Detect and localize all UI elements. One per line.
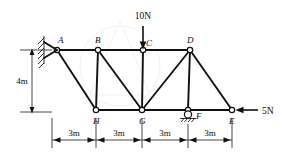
joint-label-E: E [228, 116, 235, 126]
member-D-F [188, 50, 190, 110]
dimension-span-3-label: 3m [159, 128, 171, 138]
member-D-E [190, 50, 232, 110]
load-5N-arrow [236, 107, 259, 114]
joint-B [95, 47, 100, 52]
dimension-span-4-label: 3m [204, 128, 216, 138]
pin-support-A-icon [38, 36, 57, 68]
roller-support-F-icon [180, 111, 196, 122]
load-5N-label: 5N [262, 106, 274, 116]
truss-diagram-figure: 10N 5N A B C D H G F E 4m [0, 0, 282, 156]
joint-G [139, 107, 144, 112]
joint-label-C: C [146, 38, 153, 48]
member-D-G [142, 50, 190, 110]
joint-D [187, 47, 192, 52]
member-B-H [96, 50, 98, 110]
joint-H [93, 107, 98, 112]
dimension-height-label: 4m [16, 76, 28, 86]
joint-label-F: F [195, 111, 202, 121]
joint-label-B: B [95, 35, 101, 45]
joint-E [229, 107, 234, 112]
load-10N-label: 10N [135, 11, 152, 21]
truss-svg-canvas: 10N 5N A B C D H G F E 4m [0, 0, 282, 156]
joint-label-D: D [186, 35, 194, 45]
member-C-G [142, 50, 143, 110]
joint-label-G: G [139, 116, 146, 126]
member-A-H [57, 50, 96, 110]
dimension-span-1-label: 3m [68, 128, 80, 138]
background-watermark [80, 20, 160, 106]
joint-label-A: A [57, 35, 64, 45]
dimension-span-2-label: 3m [113, 128, 125, 138]
